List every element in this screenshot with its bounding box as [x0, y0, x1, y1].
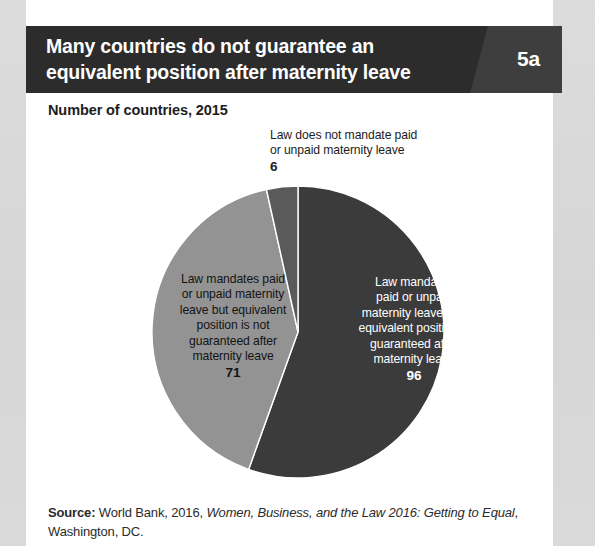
pie-label-no-mandate-line-1: Law does not mandate paid — [270, 128, 417, 142]
pie-label-guaranteed-line-2: paid or unpaid — [376, 290, 452, 304]
pie-value-not-guaranteed: 71 — [147, 365, 319, 380]
source-text-before: World Bank, 2016, — [95, 505, 206, 520]
source-note: Source: World Bank, 2016, Women, Busines… — [48, 503, 528, 541]
figure-title-line-2: equivalent position after maternity leav… — [46, 59, 466, 85]
pie-label-not-guaranteed-line-1: Law mandates paid — [181, 272, 285, 286]
pie-label-not-guaranteed-line-2: or unpaid maternity — [182, 287, 284, 301]
pie-label-guaranteed-line-5: guaranteed after — [370, 337, 458, 351]
source-label: Source: — [48, 505, 95, 520]
pie-label-guaranteed: Law mandates paid or unpaid maternity le… — [328, 275, 500, 384]
pie-label-not-guaranteed-line-6: maternity leave — [192, 349, 273, 363]
figure-title-line-1: Many countries do not guarantee an — [46, 33, 466, 59]
pie-value-no-mandate: 6 — [270, 159, 490, 174]
pie-label-not-guaranteed-line-5: guaranteed after — [189, 334, 277, 348]
pie-label-not-guaranteed: Law mandates paid or unpaid maternity le… — [147, 272, 319, 381]
chart-subtitle: Number of countries, 2015 — [48, 102, 228, 118]
pie-label-guaranteed-line-3: maternity leave and — [362, 306, 466, 320]
pie-label-no-mandate-line-2: or unpaid maternity leave — [270, 143, 404, 157]
header-badge-panel — [470, 26, 562, 93]
source-title-italic: Women, Business, and the Law 2016: Getti… — [206, 505, 514, 520]
pie-chart: Law does not mandate paid or unpaid mate… — [26, 120, 553, 490]
pie-label-not-guaranteed-line-3: leave but equivalent — [180, 303, 286, 317]
pie-value-guaranteed: 96 — [328, 368, 500, 383]
figure-number-badge: 5a — [517, 47, 540, 71]
pie-label-guaranteed-line-4: equivalent position is — [359, 321, 470, 335]
pie-label-not-guaranteed-line-4: position is not — [196, 318, 269, 332]
figure-page: Many countries do not guarantee an equiv… — [0, 0, 595, 546]
figure-title: Many countries do not guarantee an equiv… — [46, 33, 466, 85]
pie-label-no-mandate: Law does not mandate paid or unpaid mate… — [270, 128, 490, 174]
figure-header-band: Many countries do not guarantee an equiv… — [26, 26, 562, 93]
pie-label-guaranteed-line-1: Law mandates — [375, 275, 453, 289]
pie-label-guaranteed-line-6: maternity leave — [373, 352, 454, 366]
